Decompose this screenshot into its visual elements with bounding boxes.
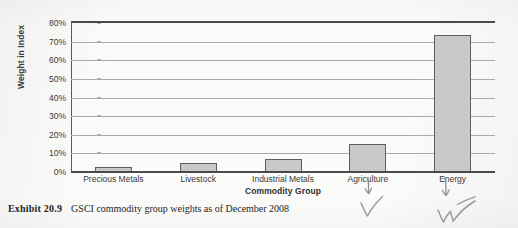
x-axis-tick-label: Energy xyxy=(439,174,466,184)
y-axis-tick-label: 60% xyxy=(30,55,66,65)
y-axis-tick-labels: 0%10%20%30%40%50%60%70%80% xyxy=(30,23,66,172)
y-axis-tick-label: 30% xyxy=(30,111,66,121)
x-axis-tick-label: Agriculture xyxy=(347,174,388,184)
x-axis-title: Commodity Group xyxy=(71,186,495,196)
y-axis-tick-label: 20% xyxy=(30,130,66,140)
y-axis-tick-label: 80% xyxy=(30,18,66,28)
x-axis-tick-label: Industrial Metals xyxy=(252,174,314,184)
figure-page: Weight in Index 0%10%20%30%40%50%60%70%8… xyxy=(0,0,518,228)
bar-agriculture xyxy=(349,144,386,172)
caption-description: GSCI commodity group weights as of Decem… xyxy=(71,203,289,214)
bar-chart: Weight in Index 0%10%20%30%40%50%60%70%8… xyxy=(0,0,518,196)
bar-energy xyxy=(434,35,471,172)
x-axis-tick-label: Precious Metals xyxy=(83,174,143,184)
bars xyxy=(71,23,495,172)
plot-bottom-axis-line xyxy=(71,171,495,173)
y-axis-tick-label: 40% xyxy=(30,93,66,103)
figure-caption: Exhibit 20.9GSCI commodity group weights… xyxy=(8,203,289,214)
plot-area xyxy=(71,23,495,172)
y-axis-tick-label: 0% xyxy=(30,167,66,177)
y-axis-tick-label: 50% xyxy=(30,74,66,84)
x-axis-tick-label: Livestock xyxy=(180,174,215,184)
y-axis-tick-label: 70% xyxy=(30,37,66,47)
caption-exhibit-number: Exhibit 20.9 xyxy=(8,203,62,214)
y-axis-title: Weight in Index xyxy=(16,2,26,112)
y-axis-tick-label: 10% xyxy=(30,148,66,158)
